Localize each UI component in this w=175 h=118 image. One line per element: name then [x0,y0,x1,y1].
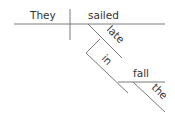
verb-word: sailed [88,9,119,21]
article-word: the [150,81,171,102]
subject-word: They [29,9,56,21]
sentence-diagram: They sailed late in fall the [0,0,175,118]
preposition-word: in [100,52,115,67]
object-word: fall [133,67,149,79]
preposition-connector-line [86,39,100,53]
adverb-word: late [105,23,128,46]
